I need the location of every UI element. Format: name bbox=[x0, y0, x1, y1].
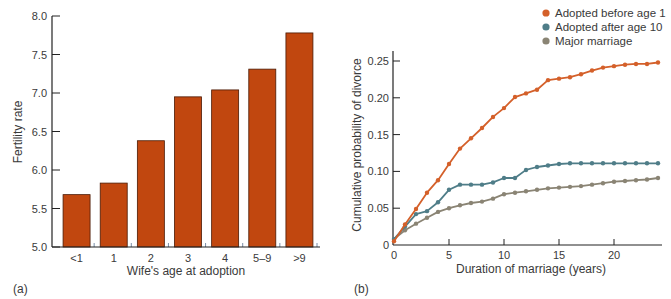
data-point-marker bbox=[656, 161, 660, 165]
y-tick-label: 0.15 bbox=[368, 129, 389, 141]
legend-label: Major marriage bbox=[555, 35, 632, 47]
data-point-marker bbox=[458, 203, 462, 207]
y-tick-label: 0.25 bbox=[368, 55, 389, 67]
data-point-marker bbox=[524, 189, 528, 193]
series-lines bbox=[392, 60, 660, 243]
x-axis-label: Wife's age at adoption bbox=[127, 264, 245, 278]
x-tick-label: 4 bbox=[222, 252, 228, 264]
x-tick-label: 5 bbox=[446, 249, 452, 261]
data-point-marker bbox=[579, 184, 583, 188]
figure: <112345–9>95.05.56.06.57.07.58.0 Fertili… bbox=[0, 0, 671, 299]
data-point-marker bbox=[579, 161, 583, 165]
legend-label: Adopted before age 1 bbox=[555, 7, 666, 19]
panel-label-a: (a) bbox=[13, 282, 28, 296]
bar-2 bbox=[137, 141, 164, 247]
data-point-marker bbox=[535, 188, 539, 192]
data-point-marker bbox=[458, 146, 462, 150]
bar-0 bbox=[63, 195, 90, 247]
x-tick-label: 20 bbox=[608, 249, 620, 261]
legend-marker-icon bbox=[542, 37, 549, 44]
data-point-marker bbox=[568, 185, 572, 189]
y-axis-label: Fertility rate bbox=[11, 100, 25, 163]
data-point-marker bbox=[491, 196, 495, 200]
data-point-marker bbox=[557, 185, 561, 189]
data-point-marker bbox=[590, 68, 594, 72]
data-point-marker bbox=[469, 136, 473, 140]
x-axis-label: Duration of marriage (years) bbox=[456, 262, 606, 276]
legend-marker-icon bbox=[542, 23, 549, 30]
data-point-marker bbox=[557, 76, 561, 80]
series-line bbox=[394, 178, 658, 239]
y-tick-label: 8.0 bbox=[32, 10, 47, 22]
data-point-marker bbox=[414, 207, 418, 211]
series-adopted-after-age-10 bbox=[392, 161, 660, 241]
data-point-marker bbox=[612, 161, 616, 165]
data-point-marker bbox=[502, 106, 506, 110]
data-point-marker bbox=[491, 115, 495, 119]
y-tick-label: 0.10 bbox=[368, 165, 389, 177]
data-point-marker bbox=[579, 72, 583, 76]
x-tick-label: >9 bbox=[293, 252, 306, 264]
data-point-marker bbox=[414, 221, 418, 225]
y-tick-label: 6.5 bbox=[32, 126, 47, 138]
x-tick-label: 0 bbox=[391, 249, 397, 261]
y-axis-label: Cumulative probability of divorce bbox=[350, 58, 364, 232]
x-tick-label: 2 bbox=[148, 252, 154, 264]
x-tick-label: 5–9 bbox=[253, 252, 271, 264]
bars bbox=[63, 33, 313, 247]
data-point-marker bbox=[634, 161, 638, 165]
y-tick-label: 7.0 bbox=[32, 87, 47, 99]
bar-4 bbox=[212, 90, 239, 247]
data-point-marker bbox=[634, 62, 638, 66]
x-tick-label: 10 bbox=[498, 249, 510, 261]
data-point-marker bbox=[612, 64, 616, 68]
data-point-marker bbox=[480, 126, 484, 130]
legend-marker-icon bbox=[542, 9, 549, 16]
data-point-marker bbox=[403, 222, 407, 226]
data-point-marker bbox=[469, 182, 473, 186]
data-point-marker bbox=[568, 161, 572, 165]
data-point-marker bbox=[392, 239, 396, 243]
y-tick-label: 0.05 bbox=[368, 202, 389, 214]
fertility-bar-chart: <112345–9>95.05.56.06.57.07.58.0 Fertili… bbox=[11, 10, 320, 296]
data-point-marker bbox=[524, 168, 528, 172]
data-point-marker bbox=[590, 161, 594, 165]
divorce-line-chart: Adopted before age 1Adopted after age 10… bbox=[350, 7, 666, 296]
data-point-marker bbox=[645, 161, 649, 165]
data-point-marker bbox=[480, 199, 484, 203]
data-point-marker bbox=[436, 210, 440, 214]
x-tick-label: 15 bbox=[553, 249, 565, 261]
y-tick-label: 6.0 bbox=[32, 164, 47, 176]
data-point-marker bbox=[425, 209, 429, 213]
bar-1 bbox=[100, 183, 127, 247]
data-point-marker bbox=[535, 165, 539, 169]
data-point-marker bbox=[513, 176, 517, 180]
data-point-marker bbox=[436, 200, 440, 204]
data-point-marker bbox=[546, 186, 550, 190]
y-tick-label: 0 bbox=[383, 239, 389, 251]
bar-5 bbox=[249, 69, 276, 247]
data-point-marker bbox=[601, 65, 605, 69]
data-point-marker bbox=[546, 163, 550, 167]
data-point-marker bbox=[447, 162, 451, 166]
data-point-marker bbox=[546, 78, 550, 82]
data-point-marker bbox=[623, 179, 627, 183]
panel-label-b: (b) bbox=[354, 282, 369, 296]
series-line bbox=[394, 163, 658, 239]
data-point-marker bbox=[601, 161, 605, 165]
data-point-marker bbox=[447, 188, 451, 192]
data-point-marker bbox=[645, 62, 649, 66]
data-point-marker bbox=[469, 201, 473, 205]
y-tick-label: 0.20 bbox=[368, 92, 389, 104]
data-point-marker bbox=[612, 180, 616, 184]
data-point-marker bbox=[645, 177, 649, 181]
legend: Adopted before age 1Adopted after age 10… bbox=[542, 7, 665, 47]
bar-6 bbox=[286, 33, 313, 247]
data-point-marker bbox=[656, 60, 660, 64]
data-point-marker bbox=[656, 176, 660, 180]
x-tick-label: 1 bbox=[111, 252, 117, 264]
axes: 00.050.100.150.200.2505101520 bbox=[368, 51, 662, 261]
data-point-marker bbox=[513, 95, 517, 99]
data-point-marker bbox=[425, 191, 429, 195]
data-point-marker bbox=[568, 75, 572, 79]
